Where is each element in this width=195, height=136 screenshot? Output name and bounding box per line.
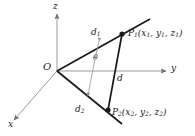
angle-arc bbox=[88, 41, 99, 96]
x-axis-line bbox=[14, 71, 57, 120]
angle-theta-label: θ bbox=[93, 54, 98, 62]
segment-d-symbol: d bbox=[117, 73, 123, 83]
point-P2-close-paren: ) bbox=[163, 107, 167, 117]
segment-d2-label: d2 bbox=[75, 105, 85, 114]
point-P1-marker bbox=[119, 31, 124, 36]
point-P1-close-paren: ) bbox=[179, 28, 183, 38]
point-P2-label: P2(x2, y2, z2) bbox=[112, 108, 167, 117]
vector-d1-line bbox=[57, 19, 150, 71]
z-axis-label: z bbox=[53, 2, 58, 11]
y-axis-label: y bbox=[171, 64, 176, 73]
point-P2-marker bbox=[105, 107, 110, 112]
segment-d2-subscript: 2 bbox=[81, 107, 85, 114]
segment-d-line bbox=[108, 34, 122, 110]
segment-d1-label: d1 bbox=[91, 28, 101, 37]
origin-label: O bbox=[43, 62, 51, 72]
x-axis-label: x bbox=[8, 120, 13, 129]
x-axis bbox=[14, 71, 57, 120]
segment-d-label: d bbox=[117, 74, 123, 83]
coordinate-diagram-figure: z y x O d1 d2 d θ P1(x1, y1, z1) P2(x2, … bbox=[0, 0, 195, 136]
segment-d1-subscript: 1 bbox=[97, 30, 101, 37]
point-P1-label: P1(x1, y1, z1) bbox=[128, 29, 183, 38]
